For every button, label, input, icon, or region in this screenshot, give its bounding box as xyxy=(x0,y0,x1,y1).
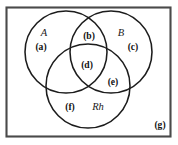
region-label-b: (b) xyxy=(83,30,95,42)
region-label-g: (g) xyxy=(154,119,165,131)
set-label-b: B xyxy=(118,27,125,38)
region-label-d: (d) xyxy=(81,59,93,71)
set-label-a: A xyxy=(40,27,48,38)
region-label-a: (a) xyxy=(35,41,46,53)
region-label-c: (c) xyxy=(128,41,139,53)
set-label-rh: Rh xyxy=(91,101,104,112)
venn-diagram-canvas: A B Rh (a) (b) (c) (d) (e) (f) (g) xyxy=(0,0,178,145)
universal-set-rectangle xyxy=(7,8,171,137)
venn-diagram-figure: A B Rh (a) (b) (c) (d) (e) (f) (g) xyxy=(0,0,178,145)
region-label-f: (f) xyxy=(65,101,75,113)
region-label-e: (e) xyxy=(108,76,119,88)
